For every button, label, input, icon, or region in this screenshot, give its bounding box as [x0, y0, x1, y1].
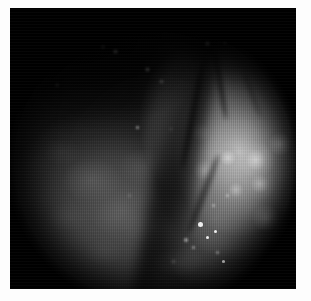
field-of-view-mask — [10, 8, 296, 289]
endoscopic-image-canvas[interactable] — [10, 8, 296, 289]
image-caption — [10, 290, 296, 301]
image-page-frame — [0, 0, 311, 301]
